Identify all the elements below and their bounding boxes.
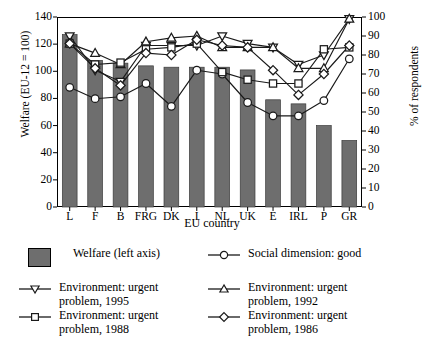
y-right-tick-100: 100: [368, 11, 402, 23]
y-right-tick-60: 60: [368, 87, 402, 99]
y-left-tick-40: 40: [18, 147, 52, 159]
y-axis-right-title: % of respondents: [408, 6, 420, 166]
bar-NL: [215, 67, 230, 207]
datapoint-circle-GR: [345, 55, 353, 63]
triangle-down-marker-icon: [18, 282, 52, 296]
chart-canvas: [57, 17, 362, 207]
datapoint-diamond-DK: [167, 50, 176, 59]
legend-item-env-1986: Environment: urgent problem, 1986: [207, 309, 347, 336]
y-right-tick-40: 40: [368, 125, 402, 137]
circle-marker-icon: [207, 248, 241, 262]
legend-label-env-1995: Environment: urgent problem, 1995: [59, 281, 158, 308]
welfare-swatch: [28, 248, 51, 267]
chart-figure: Welfare (EU-12 = 100) % of respondents 0…: [0, 0, 424, 348]
datapoint-circle-L: [66, 84, 74, 92]
datapoint-circle-DK: [168, 103, 176, 111]
y-left-tick-140: 140: [18, 11, 52, 23]
bar-L: [62, 35, 77, 207]
y-right-tick-80: 80: [368, 49, 402, 61]
legend-item-welfare: Welfare (left axis): [28, 247, 160, 267]
y-left-tick-120: 120: [18, 38, 52, 50]
y-left-tick-60: 60: [18, 120, 52, 132]
y-right-tick-70: 70: [368, 68, 402, 80]
datapoint-circle-E: [269, 112, 277, 120]
legend-item-env-1988: Environment: urgent problem, 1988: [18, 309, 158, 336]
legend-label-welfare: Welfare (left axis): [73, 247, 160, 261]
legend-label-social: Social dimension: good: [248, 247, 361, 261]
datapoint-circle-I: [193, 66, 201, 74]
y-left-tick-100: 100: [18, 65, 52, 77]
legend-item-social: Social dimension: good: [207, 247, 361, 262]
bar-DK: [164, 67, 179, 207]
bar-P: [317, 126, 332, 207]
datapoint-circle-FRG: [142, 80, 150, 88]
y-axis-left-title: Welfare (EU-12 = 100): [19, 4, 31, 164]
bar-I: [189, 67, 204, 207]
legend-label-env-1988: Environment: urgent problem, 1988: [59, 309, 158, 336]
chart-legend: Welfare (left axis) Social dimension: go…: [0, 243, 424, 348]
legend-label-env-1986: Environment: urgent problem, 1986: [248, 309, 347, 336]
datapoint-square-NL: [219, 69, 226, 76]
legend-item-env-1992: Environment: urgent problem, 1992: [207, 281, 347, 308]
diamond-marker-icon: [207, 310, 241, 324]
y-right-tick-0: 0: [368, 201, 402, 213]
bar-F: [88, 60, 103, 207]
y-left-tick-0: 0: [18, 201, 52, 213]
plot-area: Welfare (EU-12 = 100) % of respondents 0…: [0, 0, 424, 232]
square-marker-icon: [18, 310, 52, 324]
legend-item-env-1995: Environment: urgent problem, 1995: [18, 281, 158, 308]
x-axis-title: EU country: [0, 216, 424, 231]
y-left-tick-80: 80: [18, 92, 52, 104]
datapoint-square-P: [320, 46, 327, 53]
datapoint-circle-F: [91, 95, 99, 103]
datapoint-circle-IRL: [295, 112, 303, 120]
datapoint-square-B: [117, 59, 124, 66]
bar-GR: [342, 141, 357, 208]
line-diamond: [70, 40, 350, 95]
datapoint-square-E: [269, 80, 276, 87]
y-right-tick-50: 50: [368, 106, 402, 118]
y-right-tick-10: 10: [368, 182, 402, 194]
datapoint-circle-UK: [244, 99, 252, 107]
triangle-up-marker-icon: [207, 282, 241, 296]
y-right-tick-30: 30: [368, 144, 402, 156]
bar-UK: [240, 70, 255, 207]
datapoint-square-IRL: [295, 80, 302, 87]
datapoint-square-UK: [244, 76, 251, 83]
y-right-tick-20: 20: [368, 163, 402, 175]
datapoint-circle-P: [320, 97, 328, 105]
datapoint-circle-B: [117, 93, 125, 101]
y-left-tick-20: 20: [18, 174, 52, 186]
y-right-tick-90: 90: [368, 30, 402, 42]
legend-label-env-1992: Environment: urgent problem, 1992: [248, 281, 347, 308]
